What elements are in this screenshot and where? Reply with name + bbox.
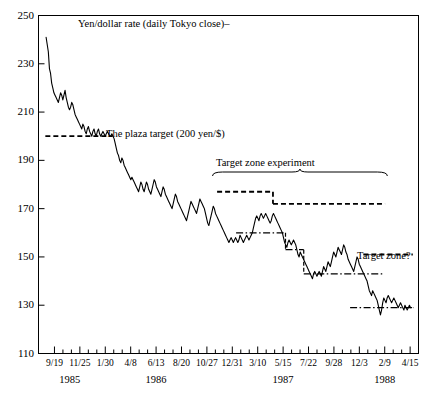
y-axis-tick-label: 190 xyxy=(0,153,34,165)
yen-dollar-series-line xyxy=(46,37,412,315)
x-axis-year-label: 1987 xyxy=(263,374,303,385)
annotation-plaza-target-label: The plaza target (200 yen/$) xyxy=(106,128,225,139)
target-zone-brace xyxy=(213,169,388,176)
annotation-target-zone-question-label: Target zone? xyxy=(357,250,411,261)
y-axis-tick-label: 170 xyxy=(0,202,34,214)
y-axis-tick-label: 210 xyxy=(0,105,34,117)
chart-title: Yen/dollar rate (daily Tokyo close)– xyxy=(78,18,229,29)
x-axis-year-label: 1988 xyxy=(365,374,405,385)
x-axis-year-label: 1986 xyxy=(136,374,176,385)
annotation-target-zone-experiment-label: Target zone experiment xyxy=(216,157,315,168)
y-axis-tick-label: 150 xyxy=(0,250,34,262)
y-axis-tick-label: 250 xyxy=(0,9,34,21)
x-axis-ticks xyxy=(54,347,410,354)
plot-frame xyxy=(39,16,419,354)
y-axis-tick-label: 230 xyxy=(0,57,34,69)
yen-dollar-rate-chart: Yen/dollar rate (daily Tokyo close)– The… xyxy=(0,0,431,406)
x-axis-tick-label: 4/15 xyxy=(394,358,426,368)
chart-canvas xyxy=(0,0,431,406)
y-axis-tick-label: 110 xyxy=(0,347,34,359)
y-axis-ticks xyxy=(39,16,45,354)
y-axis-tick-label: 130 xyxy=(0,298,34,310)
x-axis-year-label: 1985 xyxy=(50,374,90,385)
